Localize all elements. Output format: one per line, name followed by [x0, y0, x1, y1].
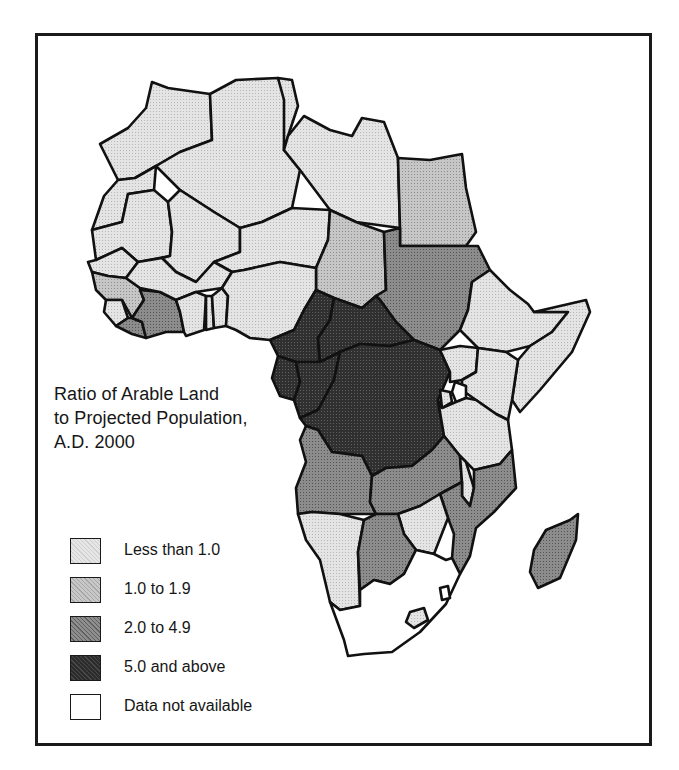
swatch-2-to-4-9	[70, 616, 101, 642]
legend-item-5-and-above: 5.0 and above	[70, 655, 330, 683]
legend-item-2-to-4-9: 2.0 to 4.9	[70, 616, 330, 644]
legend-label: 1.0 to 1.9	[124, 580, 191, 598]
region-egypt	[398, 154, 476, 246]
legend-item-1-to-1-9: 1.0 to 1.9	[70, 577, 330, 605]
legend-item-not-available: Data not available	[70, 694, 330, 722]
title-line-2: to Projected Population,	[54, 406, 248, 430]
swatch-less-than-1	[70, 538, 101, 564]
title-line-1: Ratio of Arable Land	[54, 382, 248, 406]
map-title: Ratio of Arable Land to Projected Popula…	[54, 382, 248, 454]
region-swaziland	[440, 586, 450, 600]
swatch-5-and-above	[70, 655, 101, 681]
title-line-3: A.D. 2000	[54, 430, 248, 454]
swatch-1-to-1-9	[70, 577, 101, 603]
legend-label: Less than 1.0	[124, 541, 220, 559]
legend-label: 2.0 to 4.9	[124, 619, 191, 637]
swatch-not-available	[70, 694, 101, 720]
legend-item-less-than-1: Less than 1.0	[70, 538, 330, 566]
legend-label: Data not available	[124, 697, 252, 715]
legend-label: 5.0 and above	[124, 658, 225, 676]
region-madagascar	[530, 514, 578, 588]
